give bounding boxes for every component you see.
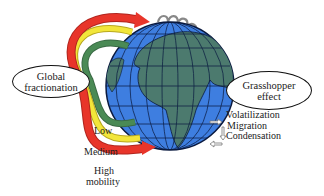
- grasshopper-effect-line-2: effect: [257, 91, 281, 102]
- grasshopper-effect-label: Grasshopper effect: [226, 71, 312, 110]
- medium-mobility-label: Medium: [84, 147, 118, 157]
- high-mobility-label-line-1: High: [94, 166, 114, 176]
- globe-icon: [106, 22, 236, 150]
- grasshopper-effect-line-1: Grasshopper: [242, 80, 295, 91]
- condensation-label: Condensation: [226, 131, 281, 141]
- volatilization-label: Volatilization: [226, 110, 280, 120]
- global-fractionation-label: Global fractionation: [12, 65, 90, 98]
- global-fractionation-line-1: Global: [37, 71, 66, 82]
- low-mobility-label: Low: [94, 126, 112, 136]
- high-mobility-label-line-2: mobility: [86, 177, 120, 187]
- global-fractionation-line-2: fractionation: [24, 82, 78, 93]
